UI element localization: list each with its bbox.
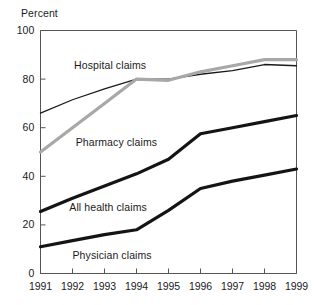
series-lines-group <box>41 60 297 247</box>
y-tick-label: 20 <box>11 219 35 230</box>
x-tick-label: 1998 <box>249 281 281 292</box>
series-line-hospital-claims <box>41 65 297 114</box>
series-label-physician-claims: Physician claims <box>73 249 152 261</box>
x-tick-label: 1999 <box>281 281 313 292</box>
series-line-all-health-claims <box>41 116 297 212</box>
x-tick-label: 1993 <box>89 281 121 292</box>
series-label-pharmacy-claims: Pharmacy claims <box>76 136 157 148</box>
x-tick-label: 1996 <box>185 281 217 292</box>
y-tick-label: 40 <box>11 171 35 182</box>
x-tick-label: 1991 <box>25 281 57 292</box>
y-tick-label: 60 <box>11 122 35 133</box>
y-tick-label: 100 <box>11 25 35 36</box>
plot-canvas <box>0 0 314 305</box>
series-label-all-health-claims: All health claims <box>69 201 147 213</box>
x-tick-label: 1992 <box>57 281 89 292</box>
series-label-hospital-claims: Hospital claims <box>74 59 146 71</box>
x-tick-label: 1995 <box>153 281 185 292</box>
x-tick-label: 1997 <box>217 281 249 292</box>
x-tick-label: 1994 <box>121 281 153 292</box>
line-chart-figure: Percent 100806040200 1991199219931994199… <box>0 0 314 305</box>
y-tick-label: 0 <box>11 268 35 279</box>
y-tick-label: 80 <box>11 74 35 85</box>
